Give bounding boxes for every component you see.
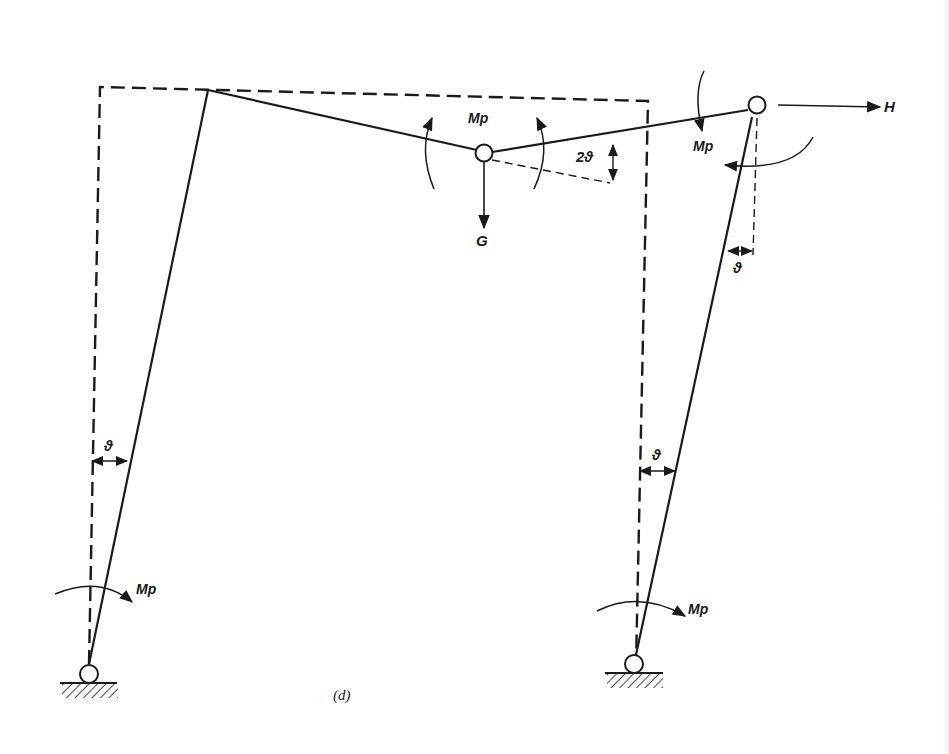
right-base-moment-arc bbox=[597, 602, 685, 616]
moment-label-left-base: Mp bbox=[136, 581, 156, 597]
mid-left-moment-arc bbox=[425, 118, 434, 189]
left-support bbox=[60, 683, 118, 698]
moment-label-mid: Mp bbox=[468, 110, 488, 126]
right-joint-moment-arc-upper bbox=[698, 71, 704, 131]
angle-label-theta-right-top: ϑ bbox=[733, 259, 742, 276]
hinges bbox=[80, 97, 766, 684]
left-beam-segment bbox=[208, 90, 477, 150]
moment-label-right-base: Mp bbox=[688, 601, 708, 617]
horizontal-load-arrow bbox=[778, 105, 880, 107]
deformed-frame bbox=[89, 90, 752, 664]
angle-label-theta-right-col: ϑ bbox=[652, 446, 661, 463]
left-base-hinge bbox=[80, 665, 98, 683]
right-joint-hinge bbox=[749, 97, 766, 114]
right-joint-moment-arc-lower bbox=[725, 137, 813, 166]
moment-label-right-joint: Mp bbox=[693, 138, 713, 154]
load-label-g: G bbox=[476, 232, 488, 249]
mid-right-moment-arc bbox=[534, 118, 544, 189]
angle-dimensions bbox=[92, 145, 752, 471]
right-column bbox=[634, 117, 752, 664]
original-frame-dashed bbox=[89, 87, 648, 665]
angle-label-2theta: 2ϑ bbox=[576, 148, 593, 165]
left-base-moment-arc bbox=[55, 586, 132, 602]
figure-caption: (d) bbox=[333, 687, 351, 704]
left-column bbox=[89, 90, 208, 664]
right-support bbox=[605, 673, 663, 688]
page-edge-shadow bbox=[943, 0, 949, 754]
reference-dashed-lines bbox=[492, 118, 757, 255]
right-base-hinge bbox=[625, 655, 643, 673]
angle-label-theta-left-col: ϑ bbox=[104, 437, 113, 454]
mid-beam-hinge bbox=[476, 145, 493, 162]
vertical-reference-line bbox=[753, 118, 757, 255]
load-label-h: H bbox=[884, 98, 895, 115]
